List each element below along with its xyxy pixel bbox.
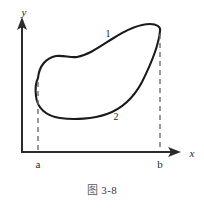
figure-page: y x a b 1 2 图3-8 xyxy=(0,0,204,214)
caption-number-label: 3-8 xyxy=(101,184,117,196)
caption-prefix-label: 图 xyxy=(87,181,99,197)
y-axis-label: y xyxy=(21,6,27,18)
closed-region-outline xyxy=(36,24,161,119)
figure-caption: 图3-8 xyxy=(0,181,204,197)
x-tick-label-a: a xyxy=(36,158,41,170)
curve-label-lower: 2 xyxy=(114,111,119,122)
curve-label-upper: 1 xyxy=(106,28,111,39)
x-tick-label-b: b xyxy=(157,158,163,170)
x-axis-label: x xyxy=(189,147,195,159)
